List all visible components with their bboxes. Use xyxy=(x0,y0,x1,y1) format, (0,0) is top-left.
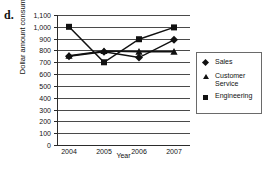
x-axis-title: Year xyxy=(57,152,190,159)
legend-label: Customer Service xyxy=(215,72,258,88)
y-tick-label: 500 xyxy=(39,82,51,89)
y-tick xyxy=(54,50,58,51)
y-axis-title: Dollar amount consumed xyxy=(18,0,27,93)
y-tick-label: 700 xyxy=(39,59,51,66)
x-axis-line xyxy=(57,145,190,146)
y-tick-label: 300 xyxy=(39,106,51,113)
plot-area: 01002003004005006007008009001,0001,10020… xyxy=(57,15,190,145)
triangle-marker-icon xyxy=(201,73,212,82)
y-tick-label: 600 xyxy=(39,71,51,78)
data-point-marker xyxy=(135,54,143,62)
y-tick xyxy=(54,121,58,122)
y-tick xyxy=(54,110,58,111)
y-tick xyxy=(54,62,58,63)
legend-item-customer-service: Customer Service xyxy=(201,72,258,88)
y-tick xyxy=(54,27,58,28)
y-tick xyxy=(54,98,58,99)
data-point-marker xyxy=(170,36,178,44)
chart-legend: Sales Customer Service Engineering xyxy=(196,52,262,114)
data-point-marker xyxy=(66,24,72,30)
series-line xyxy=(69,27,174,62)
y-tick-label: 1,000 xyxy=(33,23,51,30)
y-tick-label: 100 xyxy=(39,130,51,137)
y-tick xyxy=(54,145,58,146)
y-tick xyxy=(54,74,58,75)
data-point-marker xyxy=(136,36,142,42)
panel-letter: d. xyxy=(4,8,14,23)
square-marker-icon xyxy=(201,93,212,102)
y-tick xyxy=(54,39,58,40)
y-tick xyxy=(54,15,58,16)
line-chart-figure: d. Dollar amount consumed 01002003004005… xyxy=(0,0,266,177)
diamond-marker-icon xyxy=(201,59,212,68)
y-tick-label: 900 xyxy=(39,35,51,42)
legend-item-sales: Sales xyxy=(201,58,258,68)
y-tick-label: 200 xyxy=(39,118,51,125)
y-tick-label: 800 xyxy=(39,47,51,54)
legend-label: Engineering xyxy=(215,92,252,100)
y-tick xyxy=(54,86,58,87)
y-tick-label: 0 xyxy=(47,142,51,149)
legend-label: Sales xyxy=(215,58,233,66)
legend-item-engineering: Engineering xyxy=(201,92,258,102)
y-tick-label: 1,100 xyxy=(33,12,51,19)
series-layer xyxy=(57,15,190,145)
data-point-marker xyxy=(101,59,107,65)
y-tick-label: 400 xyxy=(39,94,51,101)
y-tick xyxy=(54,133,58,134)
data-point-marker xyxy=(171,24,177,30)
